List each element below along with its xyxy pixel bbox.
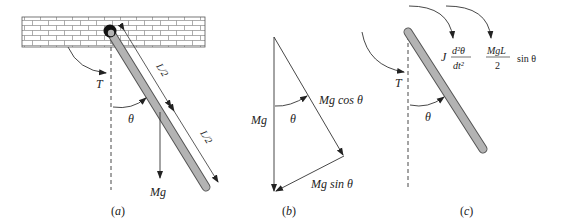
caption-b: (b) [282,204,296,218]
weight-label: Mg [250,113,267,127]
angle-arc [113,98,146,108]
gravity-denominator: 2 [495,60,500,71]
angle-arc [275,96,307,106]
inertia-numerator: d²θ [452,45,465,56]
torque-arrow [362,32,404,72]
panel-a: L/2 L/2 T θ Mg (a) [22,17,218,218]
caption-c: (c) [460,204,473,218]
cos-component-label: Mg cos θ [318,93,363,107]
angle-label: θ [425,110,431,124]
caption-a: (a) [111,204,125,218]
torque-label: T [395,76,403,90]
half-length-label-top: L/2 [154,60,171,78]
inertia-coefficient: J [441,50,447,64]
torque-arrow [68,47,106,73]
half-length-label-bottom: L/2 [198,127,215,145]
weight-label: Mg [149,185,166,199]
inertia-torque-arrow [409,6,453,38]
torque-label: T [96,77,104,91]
inertia-denominator: dt² [453,60,465,71]
sin-component-label: Mg sin θ [310,177,353,191]
gravity-numerator: MgL [486,45,506,56]
angle-arc [410,97,444,106]
angle-label: θ [128,112,134,126]
panel-c: T θ J d²θ dt² MgL 2 sin θ (c) [362,6,536,218]
gravity-torque-arrow [446,6,491,38]
angle-label: θ [290,112,296,126]
gravity-trig: sin θ [517,53,536,64]
pendulum-diagram: L/2 L/2 T θ Mg (a) θ Mg Mg cos θ Mg sin … [0,0,562,223]
panel-b: θ Mg Mg cos θ Mg sin θ (b) [250,37,363,218]
